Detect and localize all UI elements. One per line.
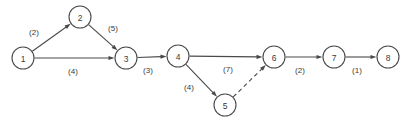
- edge-3-to-4: [137, 57, 161, 58]
- arrowhead-3-to-4: [160, 55, 166, 59]
- arrowhead-7-to-8: [371, 55, 377, 59]
- node-2[interactable]: 2: [69, 6, 91, 28]
- node-8[interactable]: 8: [377, 46, 399, 68]
- edge-weight-label-4-5: (4): [184, 83, 194, 92]
- edge-weight-label-1-3: (4): [68, 67, 78, 76]
- node-6[interactable]: 6: [263, 46, 285, 68]
- node-label-4: 4: [176, 52, 181, 62]
- arrowhead-4-to-6: [256, 55, 262, 59]
- node-label-5: 5: [223, 101, 228, 111]
- arrowhead-1-to-3: [109, 56, 115, 60]
- edge-weight-label-3-4: (3): [143, 66, 153, 75]
- node-label-7: 7: [332, 53, 337, 63]
- node-label-8: 8: [386, 53, 391, 63]
- edge-weight-label-1-2: (2): [29, 28, 39, 37]
- edge-4-to-6: [190, 56, 258, 57]
- node-5[interactable]: 5: [214, 94, 236, 116]
- arrowhead-6-to-7: [317, 55, 323, 59]
- edge-weight-label-7-8: (1): [352, 66, 362, 75]
- edge-weight-label-4-6: (7): [223, 65, 233, 74]
- network-diagram: 12345678 (2)(5)(4)(3)(7)(4)(2)(1): [0, 0, 410, 120]
- node-4[interactable]: 4: [167, 45, 189, 67]
- node-label-6: 6: [272, 53, 277, 63]
- node-7[interactable]: 7: [323, 46, 345, 68]
- node-label-1: 1: [21, 54, 26, 64]
- edges-layer: [32, 25, 371, 97]
- edge-weight-label-2-3: (5): [108, 24, 118, 33]
- node-3[interactable]: 3: [115, 47, 137, 69]
- edge-weight-label-6-7: (2): [295, 66, 305, 75]
- node-label-2: 2: [78, 13, 83, 23]
- arrowhead-1-to-2: [65, 24, 71, 29]
- node-label-3: 3: [124, 54, 129, 64]
- graph-canvas: 12345678 (2)(5)(4)(3)(7)(4)(2)(1): [0, 0, 410, 120]
- node-1[interactable]: 1: [12, 47, 34, 69]
- nodes-layer: 12345678: [12, 6, 399, 116]
- edge-5-to-6: [233, 69, 262, 97]
